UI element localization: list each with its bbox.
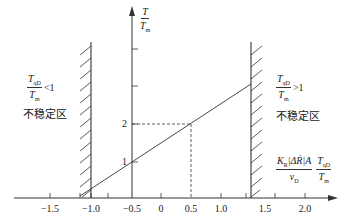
x-tick-label: 0 (159, 204, 164, 214)
x-axis-arrow-icon (328, 195, 338, 201)
left-unstable-region-label: 不稳定区 (23, 105, 67, 121)
y-axis-arrow-icon (129, 6, 135, 16)
x-tick-label: −0.5 (123, 204, 141, 214)
left-hatched-boundary (80, 42, 91, 198)
y-tick-label-2: 2 (122, 118, 127, 129)
reference-dashed-lines (132, 124, 191, 198)
x-axis-label: KR|ΔṘ|A vD TqD Tm (276, 155, 331, 184)
right-hatched-boundary (251, 42, 262, 198)
x-tick-label: 0.5 (185, 204, 198, 214)
x-tick-label: −1.5 (41, 204, 59, 214)
right-unstable-region-label: 不稳定区 (276, 107, 320, 123)
y-tick-label-1: 1 (122, 156, 127, 167)
characteristic-line (80, 84, 251, 196)
x-tick-label: 2.0 (299, 204, 312, 214)
x-tick-label: −1.0 (82, 204, 100, 214)
x-tick-label: 1.5 (259, 204, 272, 214)
left-region-condition: TqD Tm <1 (27, 73, 55, 102)
right-region-condition: TqD Tm >1 (276, 73, 304, 102)
y-axis-label: T Tm (140, 6, 150, 33)
x-tick-label: 1.0 (215, 204, 228, 214)
y-axis-ticks (132, 49, 138, 162)
x-axis-ticks (50, 193, 305, 198)
